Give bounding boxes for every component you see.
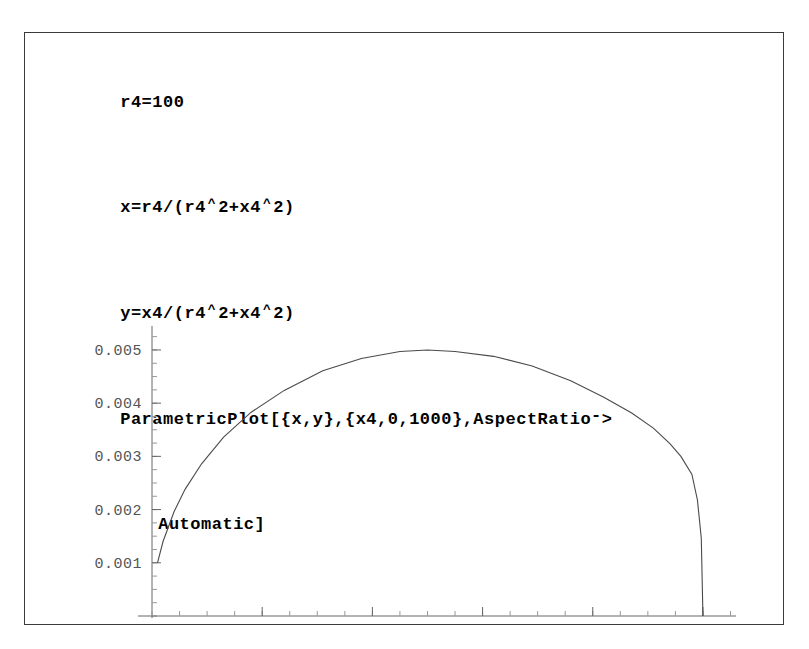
- code-line-assignment-x: x=r4/(r4^2+x4^2): [56, 155, 771, 261]
- caret-icon: ^: [261, 196, 273, 211]
- code-text: r4=100: [120, 93, 184, 112]
- y-tick-label: 0.001: [94, 556, 142, 573]
- notebook-frame: r4=100 x=r4/(r4^2+x4^2) y=x4/(r4^2+x4^2)…: [24, 32, 784, 625]
- plot-output-cell: 0.0010.0020.0030.0040.005 0.0020.0040.00…: [56, 273, 756, 618]
- curve-series: [158, 350, 703, 616]
- code-line-assignment-r4: r4=100: [56, 50, 771, 155]
- code-text-suffix: 2): [273, 198, 294, 217]
- caret-icon: ^: [206, 196, 218, 211]
- y-tick-label: 0.002: [94, 503, 142, 520]
- plot-curve: [158, 350, 703, 616]
- x-axis: 0.0020.0040.0060.0080.01: [138, 607, 736, 618]
- parametric-plot-figure: 0.0010.0020.0030.0040.005 0.0020.0040.00…: [56, 273, 756, 618]
- y-tick-label: 0.005: [94, 343, 142, 360]
- code-text-mid: 2+x4: [218, 198, 261, 217]
- y-axis: 0.0010.0020.0030.0040.005: [94, 326, 161, 618]
- y-tick-label: 0.004: [94, 396, 142, 413]
- y-tick-label: 0.003: [94, 449, 142, 466]
- code-text-prefix: x=r4/(r4: [120, 198, 206, 217]
